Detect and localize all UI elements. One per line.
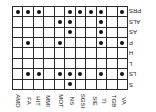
- matrix-cell[interactable]: [75, 68, 85, 78]
- matrix-cell[interactable]: [75, 16, 85, 26]
- matrix-cell[interactable]: [117, 68, 127, 78]
- matrix-cell[interactable]: [75, 48, 85, 58]
- matrix-cell[interactable]: [33, 6, 43, 16]
- matrix-cell[interactable]: [12, 48, 22, 58]
- matrix-cell[interactable]: [106, 79, 116, 89]
- matrix-cell[interactable]: [64, 79, 74, 89]
- matrix-cell[interactable]: [64, 27, 74, 37]
- matrix-cell[interactable]: [43, 79, 53, 89]
- matrix-cell[interactable]: [106, 68, 116, 78]
- row-label: L: [128, 59, 144, 70]
- matrix-cell[interactable]: [54, 16, 64, 26]
- matrix-cell[interactable]: [12, 37, 22, 47]
- matrix-cell[interactable]: [43, 37, 53, 47]
- matrix-cell[interactable]: [117, 6, 127, 16]
- matrix-cell[interactable]: [43, 58, 53, 68]
- empty-cell-icon: [16, 20, 20, 24]
- matrix-cell[interactable]: [85, 79, 95, 89]
- matrix-cell[interactable]: [96, 27, 106, 37]
- matrix-cell[interactable]: [85, 58, 95, 68]
- matrix-cell[interactable]: [117, 27, 127, 37]
- filled-circle-icon: [68, 10, 72, 14]
- matrix-cell[interactable]: [106, 48, 116, 58]
- matrix-cell[interactable]: [12, 68, 22, 78]
- matrix-cell[interactable]: [12, 58, 22, 68]
- matrix-cell[interactable]: [33, 68, 43, 78]
- matrix-cell[interactable]: [75, 58, 85, 68]
- matrix-cell[interactable]: [22, 68, 32, 78]
- matrix-cell[interactable]: [85, 37, 95, 47]
- matrix-cell[interactable]: [117, 48, 127, 58]
- matrix-cell[interactable]: [54, 27, 64, 37]
- empty-cell-icon: [58, 30, 62, 34]
- matrix-cell[interactable]: [33, 27, 43, 37]
- matrix-cell[interactable]: [96, 16, 106, 26]
- matrix-cell[interactable]: [22, 16, 32, 26]
- matrix-cell[interactable]: [54, 79, 64, 89]
- matrix-cell[interactable]: [54, 37, 64, 47]
- matrix-cell[interactable]: [33, 48, 43, 58]
- matrix-cell[interactable]: [75, 79, 85, 89]
- matrix-cell[interactable]: [96, 68, 106, 78]
- matrix-cell[interactable]: [85, 27, 95, 37]
- matrix-cell[interactable]: [22, 58, 32, 68]
- matrix-cell[interactable]: [12, 16, 22, 26]
- matrix-cell[interactable]: [43, 68, 53, 78]
- matrix-cell[interactable]: [54, 48, 64, 58]
- matrix-cell[interactable]: [96, 48, 106, 58]
- matrix-cell[interactable]: [85, 48, 95, 58]
- matrix-cell[interactable]: [117, 79, 127, 89]
- matrix-cell[interactable]: [106, 6, 116, 16]
- matrix-cell[interactable]: [64, 6, 74, 16]
- matrix-cell[interactable]: [106, 16, 116, 26]
- matrix-cell[interactable]: [75, 6, 85, 16]
- matrix-cell[interactable]: [43, 48, 53, 58]
- matrix-cell[interactable]: [43, 6, 53, 16]
- matrix-cell[interactable]: [64, 48, 74, 58]
- matrix-cell[interactable]: [85, 6, 95, 16]
- matrix-cell[interactable]: [33, 79, 43, 89]
- matrix-cell[interactable]: [85, 68, 95, 78]
- matrix-row: [12, 6, 127, 16]
- matrix-cell[interactable]: [12, 27, 22, 37]
- matrix-cell[interactable]: [117, 58, 127, 68]
- matrix-cell[interactable]: [96, 37, 106, 47]
- matrix-cell[interactable]: [33, 16, 43, 26]
- matrix-cell[interactable]: [106, 37, 116, 47]
- column-label-text: VA: [121, 97, 127, 105]
- matrix-cell[interactable]: [22, 27, 32, 37]
- matrix-cell[interactable]: [22, 37, 32, 47]
- filled-circle-icon: [58, 72, 62, 76]
- matrix-cell[interactable]: [106, 27, 116, 37]
- matrix-cell[interactable]: [117, 16, 127, 26]
- matrix-cell[interactable]: [96, 79, 106, 89]
- matrix-cell[interactable]: [106, 58, 116, 68]
- matrix-cell[interactable]: [43, 16, 53, 26]
- matrix-cell[interactable]: [22, 79, 32, 89]
- matrix-cell[interactable]: [64, 16, 74, 26]
- matrix-cell[interactable]: [117, 37, 127, 47]
- matrix-cell[interactable]: [54, 68, 64, 78]
- matrix-cell[interactable]: [96, 6, 106, 16]
- matrix-cell[interactable]: [75, 37, 85, 47]
- matrix-cell[interactable]: [54, 58, 64, 68]
- matrix-cell[interactable]: [96, 58, 106, 68]
- empty-cell-icon: [16, 82, 20, 86]
- empty-cell-icon: [120, 82, 124, 86]
- matrix-cell[interactable]: [43, 27, 53, 37]
- matrix-cell[interactable]: [33, 58, 43, 68]
- matrix-cell[interactable]: [33, 37, 43, 47]
- row-label: P: [128, 38, 144, 49]
- filled-circle-icon: [26, 72, 30, 76]
- matrix-cell[interactable]: [12, 79, 22, 89]
- matrix-cell[interactable]: [22, 48, 32, 58]
- matrix-cell[interactable]: [54, 6, 64, 16]
- matrix-cell[interactable]: [12, 6, 22, 16]
- matrix-cell[interactable]: [64, 37, 74, 47]
- matrix-cell[interactable]: [22, 6, 32, 16]
- empty-cell-icon: [78, 62, 82, 66]
- matrix-cell[interactable]: [85, 16, 95, 26]
- matrix-cell[interactable]: [75, 27, 85, 37]
- matrix-cell[interactable]: [64, 58, 74, 68]
- matrix-cell[interactable]: [64, 68, 74, 78]
